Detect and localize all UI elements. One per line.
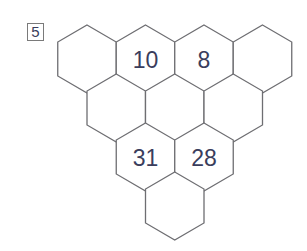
hex-cell-value: 28 — [191, 145, 217, 171]
hex-cell-value: 10 — [133, 47, 159, 73]
hexagon-pyramid: 1083128 — [0, 0, 307, 251]
hex-cell-value: 31 — [133, 145, 159, 171]
hex-cell-value: 8 — [198, 47, 211, 73]
